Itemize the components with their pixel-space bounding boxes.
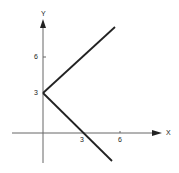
x-axis-arrow-icon [152, 130, 162, 136]
x-tick-label-3: 3 [80, 136, 84, 143]
y-axis-label: Y [41, 10, 46, 17]
chart-canvas [0, 0, 179, 173]
y-tick-label-6: 6 [34, 53, 38, 60]
x-axis-label: X [166, 129, 171, 136]
x-tick-label-6: 6 [118, 136, 122, 143]
y-axis-arrow-icon [40, 19, 46, 28]
lower-branch-line [43, 93, 112, 161]
y-tick-label-3: 3 [34, 89, 38, 96]
upper-branch-line [43, 27, 115, 93]
